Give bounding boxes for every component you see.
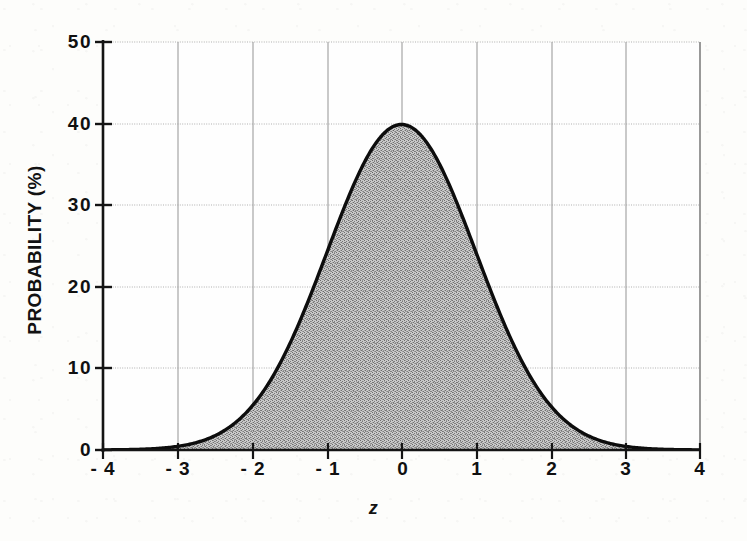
plot-area: [0, 0, 747, 541]
normal-distribution-chart: PROBABILITY (%) 0 10 20 30 40 50 - 4 - 3…: [0, 0, 747, 541]
